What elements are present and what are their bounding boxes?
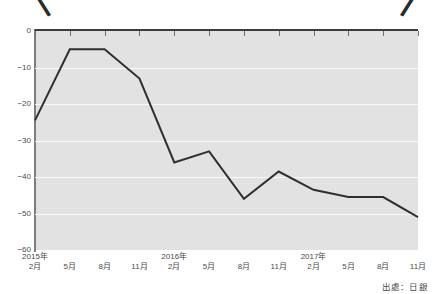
x-axis-month-label: 11月: [395, 262, 434, 272]
x-axis-tick-label: 11月: [395, 252, 434, 271]
title-left-bracket: 〈: [18, 0, 52, 18]
line-chart: 0−10−20−30−40−50−60 2015年2月5月8月11月2016年2…: [0, 22, 434, 294]
source-note: 出處：日銀: [382, 282, 429, 292]
title-right-bracket: 〉: [399, 0, 433, 18]
cropped-title-area: 〈 〉: [0, 0, 434, 22]
x-axis-labels: 2015年2月5月8月11月2016年2月5月8月11月2017年2月5月8月1…: [0, 252, 434, 284]
